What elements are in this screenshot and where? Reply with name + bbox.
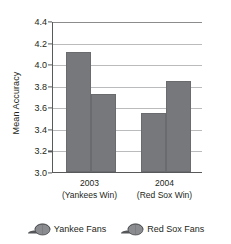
legend-label: Yankee Fans (54, 224, 106, 234)
y-tick-label: 3.6 (34, 103, 47, 113)
y-tick-label: 4.2 (34, 39, 47, 49)
x-category-year: 2003 (50, 178, 130, 190)
chart-legend: Yankee FansRed Sox Fans (0, 214, 231, 244)
x-category-year: 2004 (125, 178, 205, 190)
bar-series-group (53, 22, 202, 172)
bar (91, 94, 116, 172)
y-axis-ticks: 4.44.24.03.83.63.43.23.0 (0, 0, 52, 244)
y-tick-label: 3.2 (34, 146, 47, 156)
bar-chart-figure: Mean Accuracy 4.44.24.03.83.63.43.23.0 2… (0, 0, 231, 244)
y-tick-label: 4.4 (34, 17, 47, 27)
x-axis-category-labels: 2003(Yankees Win)2004(Red Sox Win) (52, 178, 202, 210)
legend-label: Red Sox Fans (147, 224, 204, 234)
x-category-label: 2004(Red Sox Win) (125, 178, 205, 201)
baseball-cap-icon (27, 222, 51, 237)
x-category-label: 2003(Yankees Win) (50, 178, 130, 201)
y-tick-label: 4.0 (34, 60, 47, 70)
x-category-sublabel: (Red Sox Win) (125, 190, 205, 202)
bar (141, 113, 166, 172)
y-tick-label: 3.8 (34, 82, 47, 92)
legend-entry: Red Sox Fans (120, 222, 204, 237)
baseball-cap-icon (120, 222, 144, 237)
y-tick-label: 3.0 (34, 168, 47, 178)
plot-area (52, 22, 202, 173)
bar (66, 52, 91, 172)
x-category-sublabel: (Yankees Win) (50, 190, 130, 202)
bar (166, 81, 191, 172)
legend-entry: Yankee Fans (27, 222, 106, 237)
y-tick-label: 3.4 (34, 125, 47, 135)
